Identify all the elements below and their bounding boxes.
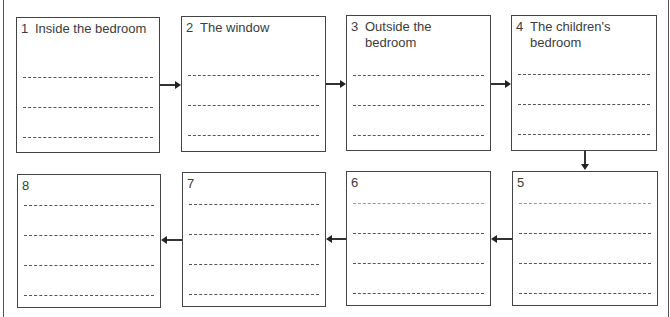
write-line[interactable] [23,107,153,108]
box-number: 1 [21,21,35,37]
arrow-4-to-5 [584,151,586,164]
arrow-head-left-icon [491,235,497,243]
story-box-1: 1Inside the bedroom [16,17,160,153]
write-line[interactable] [519,203,651,204]
write-line[interactable] [519,233,651,234]
box-number: 5 [517,175,531,191]
write-line[interactable] [353,263,484,264]
write-line[interactable] [518,74,650,75]
write-line[interactable] [519,293,651,294]
write-line[interactable] [518,104,650,105]
arrow-6-to-7 [332,238,346,240]
write-line[interactable] [519,263,651,264]
write-line[interactable] [188,75,319,76]
arrow-head-down-icon [581,164,589,170]
write-line[interactable] [189,294,319,295]
arrow-3-to-4 [491,83,505,85]
story-box-8: 8 [17,174,161,308]
story-box-3: 3Outside the bedroom [346,15,491,151]
story-box-5: 5 [512,171,658,306]
arrow-1-to-2 [160,84,175,86]
write-line[interactable] [353,105,484,106]
write-line[interactable] [189,234,319,235]
write-line[interactable] [353,75,484,76]
arrow-head-right-icon [175,81,181,89]
write-line[interactable] [189,204,319,205]
arrow-5-to-6 [497,238,512,240]
box-label: The children's bedroom [530,19,611,51]
arrow-head-left-icon [161,236,167,244]
box-number: 4 [516,19,530,35]
frame-left-border [3,0,4,317]
box-label: The window [200,20,269,36]
write-line[interactable] [518,134,650,135]
story-box-7: 7 [182,172,326,307]
box-number: 2 [186,20,200,36]
write-line[interactable] [353,203,484,204]
story-box-6: 6 [346,171,491,306]
box-number: 7 [187,176,201,192]
box-label: Inside the bedroom [35,21,146,37]
arrow-2-to-3 [326,83,340,85]
write-line[interactable] [24,205,154,206]
write-line[interactable] [24,235,154,236]
write-line[interactable] [353,293,484,294]
write-line[interactable] [24,295,154,296]
story-box-4: 4The children's bedroom [511,15,657,151]
write-line[interactable] [23,77,153,78]
write-line[interactable] [24,265,154,266]
box-number: 3 [351,19,365,35]
write-line[interactable] [353,135,484,136]
write-line[interactable] [189,264,319,265]
box-number: 6 [351,175,365,191]
arrow-head-right-icon [505,80,511,88]
write-line[interactable] [353,233,484,234]
story-box-2: 2The window [181,16,326,152]
arrow-head-left-icon [326,235,332,243]
write-line[interactable] [188,135,319,136]
box-number: 8 [22,178,36,194]
frame-right-border [668,0,669,317]
write-line[interactable] [188,105,319,106]
write-line[interactable] [23,137,153,138]
box-label: Outside the bedroom [365,19,432,51]
arrow-7-to-8 [167,239,182,241]
arrow-head-right-icon [340,80,346,88]
